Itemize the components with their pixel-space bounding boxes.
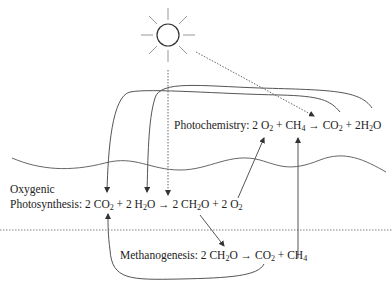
- h2o-return-arrow: [147, 85, 372, 192]
- oxygenic-label: Oxygenic: [10, 184, 55, 196]
- photochemistry-label: Photochemistry:: [174, 119, 249, 131]
- atmosphere-boundary-line: [12, 156, 386, 172]
- co2-return-arrow: [107, 91, 340, 192]
- diagram-canvas: [0, 0, 392, 291]
- sun-icon: [141, 8, 195, 62]
- light-ray-to-photochemistry: [196, 52, 314, 116]
- methanogenesis-equation: Methanogenesis: 2 CH2O → CO2 + CH4: [120, 250, 307, 262]
- ch2o-to-methanogenesis-arrow: [200, 215, 224, 246]
- methanogenesis-label: Methanogenesis:: [120, 249, 198, 261]
- photosynthesis-label: Photosynthesis:: [10, 198, 82, 210]
- photosynthesis-equation: Photosynthesis: 2 CO2 + 2 H2O → 2 CH2O +…: [10, 199, 243, 211]
- o2-to-photochemistry-arrow: [238, 138, 264, 198]
- co2-recycle-arrow: [108, 214, 264, 279]
- photochemistry-equation: Photochemistry: 2 O2 + CH4 → CO2 + 2H2O: [174, 120, 381, 132]
